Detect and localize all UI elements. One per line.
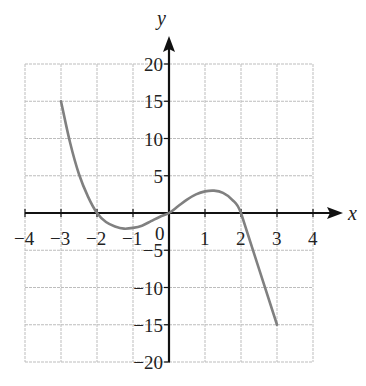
- y-tick-label: 10: [144, 129, 163, 150]
- x-tick-label: −2: [86, 228, 106, 249]
- chart: xy −4−3−2−11234−20−15−10−551015200: [0, 0, 366, 386]
- x-tick-label: −3: [50, 228, 70, 249]
- y-axis-label: y: [155, 7, 166, 30]
- x-tick-label: −1: [122, 228, 142, 249]
- y-tick-label: −15: [133, 315, 163, 336]
- x-tick-label: 3: [272, 228, 282, 249]
- x-axis-label: x: [347, 202, 357, 224]
- axes: xy: [25, 7, 357, 362]
- y-tick-label: −20: [133, 352, 163, 373]
- y-tick-label: −10: [133, 278, 163, 299]
- x-tick-label: 2: [236, 228, 246, 249]
- x-tick-label: 4: [308, 228, 318, 249]
- y-tick-label: 15: [144, 91, 163, 112]
- y-tick-label: 20: [144, 54, 163, 75]
- y-tick-label: 5: [154, 166, 164, 187]
- x-tick-label: −4: [14, 228, 35, 249]
- x-tick-label: 1: [200, 228, 210, 249]
- origin-label: 0: [155, 223, 165, 244]
